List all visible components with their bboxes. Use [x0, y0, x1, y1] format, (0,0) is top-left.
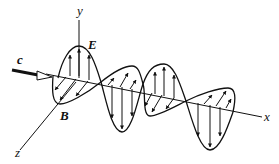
propagation-arrow-shaft: [12, 70, 38, 75]
magnetic-field-label: B: [60, 109, 69, 122]
em-wave-drawing: [0, 0, 279, 164]
propagation-speed-label: c: [17, 53, 23, 66]
x-axis-label: x: [264, 110, 270, 123]
z-axis-label: z: [15, 146, 20, 159]
electric-field-envelope: [58, 46, 233, 150]
y-axis-label: y: [77, 4, 83, 17]
propagation-arrow-head-icon: [37, 71, 52, 80]
em-wave-diagram: y E c B z x: [0, 0, 279, 164]
electric-field-label: E: [88, 38, 97, 51]
x-axis: [46, 74, 262, 117]
